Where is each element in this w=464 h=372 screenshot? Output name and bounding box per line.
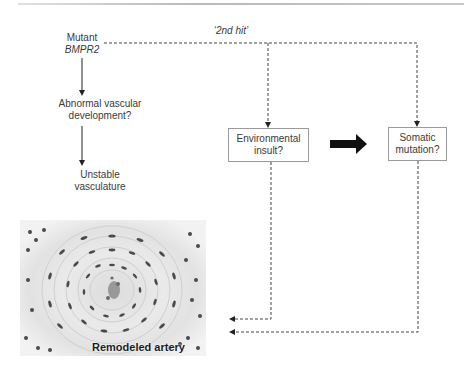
- bold-arrow-environmental-to-somatic: [330, 134, 367, 154]
- dashed-environmental-to-artery: [232, 162, 271, 319]
- dashed-second-hit-line: [104, 43, 417, 124]
- connector-layer: [0, 0, 464, 372]
- dashed-somatic-to-artery: [232, 161, 418, 332]
